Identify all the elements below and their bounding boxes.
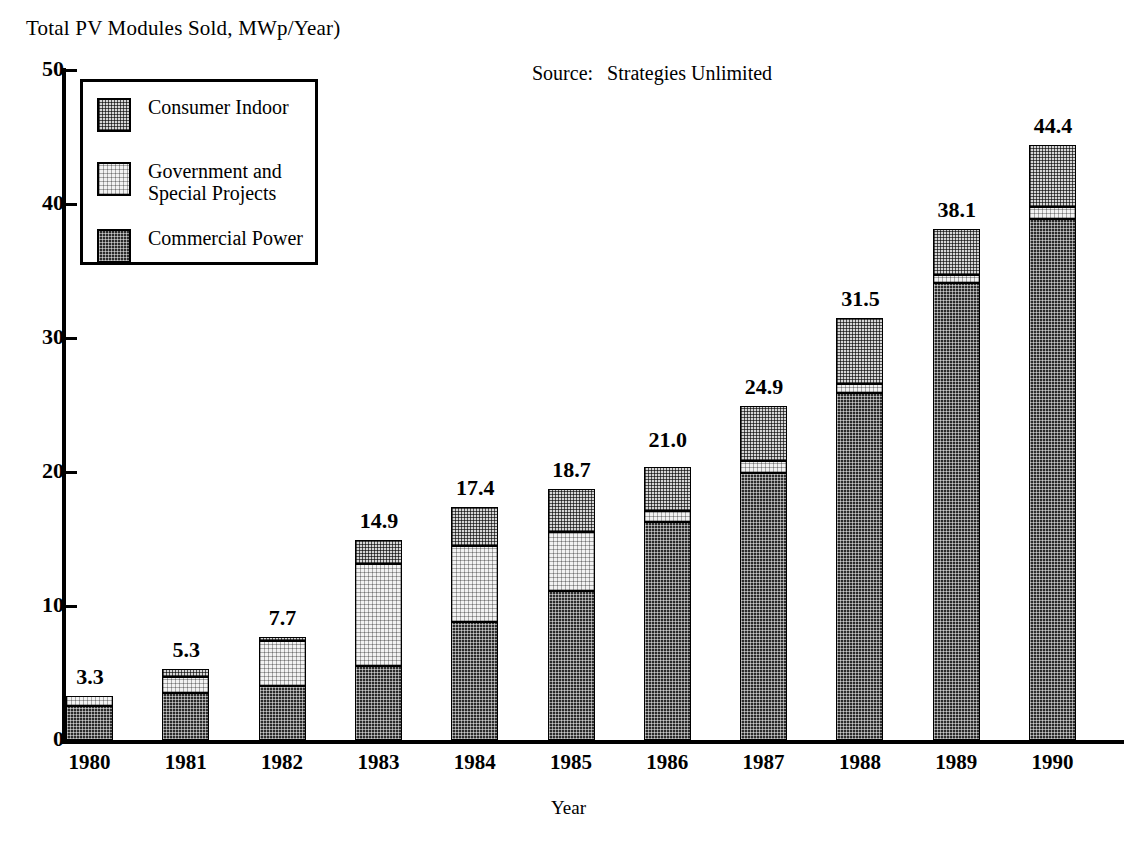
bar-segment-government-special-projects (548, 532, 595, 591)
bar-1985: 18.7 (548, 489, 595, 740)
bar-1984: 17.4 (451, 507, 498, 740)
x-axis-tick-label-1988: 1988 (815, 752, 905, 773)
bar-segment-commercial-power (355, 666, 402, 740)
x-axis-tick-label-1989: 1989 (911, 752, 1001, 773)
bar-total-label: 17.4 (430, 477, 520, 499)
bar-segment-commercial-power (162, 693, 209, 740)
consumer-indoor-swatch (97, 98, 131, 132)
bar-segment-consumer-indoor (355, 540, 402, 564)
bar-segment-consumer-indoor (162, 669, 209, 677)
x-axis-tick-label-1986: 1986 (622, 752, 712, 773)
legend-item-commercial-power: Commercial Power (97, 227, 303, 263)
x-axis-line (62, 740, 1124, 744)
bar-total-label: 31.5 (815, 288, 905, 310)
y-axis-tick-mark (62, 605, 77, 608)
bar-segment-consumer-indoor (644, 467, 691, 511)
bar-segment-government-special-projects (259, 641, 306, 687)
bar-1987: 24.9 (740, 406, 787, 740)
bar-segment-consumer-indoor (259, 637, 306, 641)
bar-total-label: 7.7 (238, 607, 328, 629)
bar-segment-government-special-projects (66, 696, 113, 707)
bar-1982: 7.7 (259, 637, 306, 740)
bar-segment-government-special-projects (1029, 207, 1076, 219)
source-value: Strategies Unlimited (607, 62, 772, 84)
government-special-projects-swatch (97, 162, 131, 196)
y-axis-tick-mark (62, 203, 77, 206)
bar-segment-commercial-power (548, 591, 595, 740)
bar-segment-commercial-power (644, 522, 691, 740)
bar-segment-government-special-projects (162, 677, 209, 693)
bar-segment-consumer-indoor (933, 229, 980, 275)
x-axis-title: Year (0, 797, 1137, 819)
bar-total-label: 44.4 (1008, 115, 1098, 137)
legend-item-label: Commercial Power (148, 227, 303, 249)
bar-total-label: 24.9 (719, 376, 809, 398)
x-axis-tick-label-1982: 1982 (237, 752, 327, 773)
bar-segment-government-special-projects (355, 564, 402, 666)
bar-1986: 21.0 (644, 459, 691, 740)
x-axis-tick-label-1981: 1981 (141, 752, 231, 773)
bar-1980: 3.3 (66, 696, 113, 740)
y-axis-tick-label: 0 (20, 728, 64, 750)
bar-segment-consumer-indoor (548, 489, 595, 532)
y-axis-tick-mark (62, 69, 77, 72)
y-axis-title: Total PV Modules Sold, MWp/Year) (26, 16, 341, 41)
bar-segment-commercial-power (740, 473, 787, 740)
bar-segment-commercial-power (836, 393, 883, 740)
bar-segment-consumer-indoor (740, 406, 787, 461)
bar-segment-commercial-power (66, 706, 113, 740)
x-axis-tick-label-1984: 1984 (430, 752, 520, 773)
source-label: Source: (532, 62, 593, 84)
y-axis-tick-label: 30 (20, 326, 64, 348)
bar-total-label: 3.3 (45, 666, 135, 688)
y-axis-tick-label: 20 (20, 460, 64, 482)
bar-segment-government-special-projects (451, 546, 498, 622)
pv-modules-stacked-bar-chart: Total PV Modules Sold, MWp/Year) Source:… (0, 0, 1137, 852)
bar-segment-commercial-power (259, 686, 306, 740)
bar-total-label: 14.9 (334, 510, 424, 532)
bar-1983: 14.9 (355, 540, 402, 740)
bar-total-label: 21.0 (623, 429, 713, 451)
bar-segment-government-special-projects (740, 461, 787, 473)
bar-1981: 5.3 (162, 669, 209, 740)
bar-1988: 31.5 (836, 318, 883, 740)
bar-segment-government-special-projects (933, 275, 980, 283)
bar-segment-government-special-projects (644, 511, 691, 522)
source-annotation: Source:Strategies Unlimited (532, 62, 772, 85)
x-axis-tick-label-1980: 1980 (45, 752, 135, 773)
x-axis-tick-label-1985: 1985 (526, 752, 616, 773)
bar-segment-commercial-power (933, 283, 980, 740)
x-axis-tick-label-1983: 1983 (333, 752, 423, 773)
bar-segment-commercial-power (451, 622, 498, 740)
bar-1989: 38.1 (933, 229, 980, 740)
x-axis-tick-label-1987: 1987 (719, 752, 809, 773)
y-axis-tick-label: 40 (20, 192, 64, 214)
chart-legend: Consumer IndoorGovernment and Special Pr… (80, 79, 318, 265)
bar-segment-consumer-indoor (451, 507, 498, 546)
bar-segment-consumer-indoor (1029, 145, 1076, 207)
bar-segment-consumer-indoor (836, 318, 883, 384)
legend-item-government-special-projects: Government and Special Projects (97, 160, 282, 205)
bar-1990: 44.4 (1029, 145, 1076, 740)
commercial-power-swatch (97, 229, 131, 263)
y-axis-tick-label: 10 (20, 594, 64, 616)
bar-total-label: 5.3 (141, 639, 231, 661)
x-axis-tick-label-1990: 1990 (1008, 752, 1098, 773)
legend-item-label: Government and Special Projects (148, 160, 282, 205)
y-axis-tick-mark (62, 337, 77, 340)
bar-total-label: 18.7 (527, 459, 617, 481)
y-axis-line (62, 68, 66, 743)
bar-segment-commercial-power (1029, 219, 1076, 740)
bar-segment-government-special-projects (836, 384, 883, 393)
legend-item-label: Consumer Indoor (148, 96, 289, 118)
legend-item-consumer-indoor: Consumer Indoor (97, 96, 289, 132)
y-axis-tick-label: 50 (20, 58, 64, 80)
bar-total-label: 38.1 (912, 199, 1002, 221)
y-axis-tick-mark (62, 471, 77, 474)
